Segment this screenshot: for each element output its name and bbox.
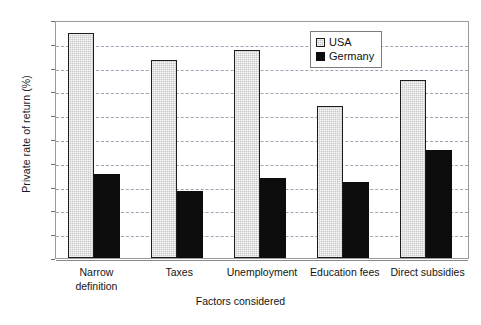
legend-item-usa: USA — [316, 35, 374, 49]
bar-chart: Private rate of return (%) 0246810121416… — [0, 0, 481, 325]
bar-germany-2 — [260, 178, 286, 258]
bar-group — [56, 22, 139, 258]
bar-germany-1 — [177, 191, 203, 258]
bar-germany-0 — [94, 174, 120, 258]
legend-swatch-usa-icon — [316, 38, 325, 47]
legend-label-germany: Germany — [329, 50, 374, 62]
bar-usa-1 — [151, 60, 177, 258]
bar-group — [222, 22, 305, 258]
x-axis-title: Factors considered — [0, 295, 481, 307]
bar-usa-3 — [317, 106, 343, 258]
legend: USA Germany — [310, 31, 382, 68]
bar-germany-3 — [343, 182, 369, 258]
bar-germany-4 — [426, 150, 452, 258]
x-tick-label: Direct subsidies — [376, 266, 479, 280]
bar-usa-4 — [400, 80, 426, 259]
plot-inner — [56, 22, 468, 258]
y-axis-title: Private rate of return (%) — [20, 34, 32, 234]
gridline — [56, 260, 468, 261]
y-tick-mark — [51, 259, 55, 260]
legend-label-usa: USA — [329, 36, 352, 48]
legend-item-germany: Germany — [316, 49, 374, 63]
legend-swatch-germany-icon — [316, 52, 325, 61]
bar-usa-2 — [234, 50, 260, 258]
bar-group — [387, 22, 470, 258]
plot-area — [55, 21, 469, 259]
bar-usa-0 — [68, 33, 94, 258]
bar-group — [139, 22, 222, 258]
